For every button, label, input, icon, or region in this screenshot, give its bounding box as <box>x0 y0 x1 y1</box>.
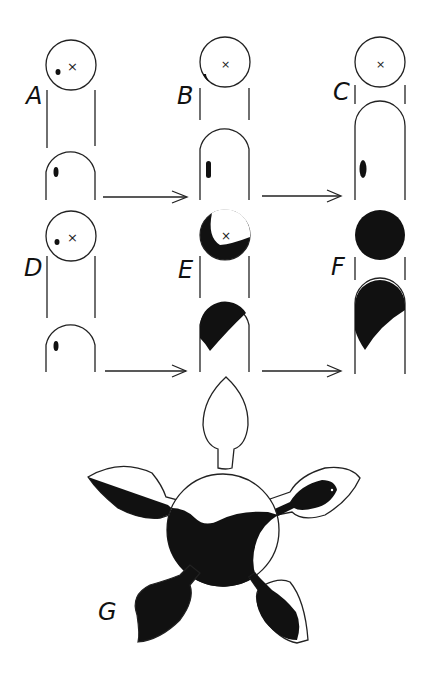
panel-c-lower-column <box>355 101 405 200</box>
panel-e-label: E <box>178 256 194 284</box>
panel-b-label: B <box>177 82 193 110</box>
panel-g-petal-lower-left <box>135 565 200 642</box>
panel-g-petal-upper-right-dot <box>331 489 333 491</box>
panel-d-upper-dot <box>55 239 60 245</box>
panel-d-center-mark: × <box>67 230 78 245</box>
panel-e-lower-fill <box>200 302 246 351</box>
panel-a-lower-dot <box>54 167 59 177</box>
arrow-e-to-f <box>262 365 341 377</box>
panel-f: F <box>331 210 405 374</box>
panel-g-label: G <box>98 598 117 626</box>
panel-c-lower-mark <box>360 160 367 178</box>
panel-c: C × <box>333 37 405 200</box>
panel-b-center-mark: × <box>221 58 230 71</box>
panel-e-center-mark: × <box>221 229 231 243</box>
panel-d-lower-dot <box>54 341 59 351</box>
panel-f-lower-fill <box>355 280 405 350</box>
panel-b-edge-dot <box>203 74 210 82</box>
arrow-d-to-e <box>105 365 186 377</box>
arrow-a-to-b <box>103 191 187 203</box>
panel-c-center-mark: × <box>376 58 385 71</box>
panel-c-label: C <box>333 78 350 106</box>
panel-a-label: A <box>24 82 42 110</box>
panel-a-lower-column <box>46 152 95 200</box>
panel-d-lower-column <box>46 325 95 372</box>
panel-b: B × <box>177 37 250 200</box>
arrow-b-to-c <box>262 190 341 202</box>
panel-g-petal-top <box>203 377 248 469</box>
panel-d-label: D <box>24 254 42 282</box>
panel-a-upper-dot <box>56 69 61 75</box>
panel-e: E × <box>178 209 250 372</box>
panel-a: A × <box>24 40 96 200</box>
panel-d: D × <box>24 211 96 372</box>
panel-f-upper-circle <box>355 210 405 260</box>
diagram-canvas: A × B × C × D <box>0 0 428 674</box>
panel-b-lower-mark <box>206 161 211 178</box>
panel-g: G <box>88 377 360 643</box>
panel-a-center-mark: × <box>67 59 78 74</box>
panel-f-label: F <box>331 253 346 281</box>
